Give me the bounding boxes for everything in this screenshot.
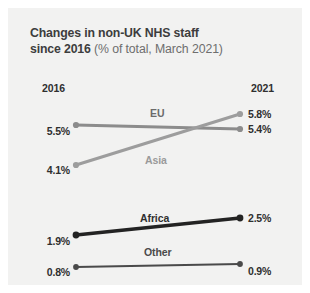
value-label-asia-2016: 4.1% [20, 164, 70, 176]
data-point-asia-2021 [237, 111, 243, 117]
axis-label-year-2021: 2021 [251, 82, 274, 94]
value-label-africa-2021: 2.5% [248, 212, 271, 224]
page-title: Changes in non-UK NHS staff since 2016 (… [30, 26, 288, 57]
value-label-africa-2016: 1.9% [20, 235, 70, 247]
series-label-other: Other [144, 246, 172, 258]
title-subtitle-part: (% of total, March 2021) [91, 42, 223, 56]
data-point-asia-2016 [73, 162, 79, 168]
series-line-other [76, 264, 240, 267]
data-point-eu-2021 [237, 126, 243, 132]
data-point-africa-2021 [237, 215, 244, 222]
value-label-other-2021: 0.9% [248, 265, 271, 277]
value-label-eu-2021: 5.4% [248, 123, 271, 135]
value-label-other-2016: 0.8% [20, 266, 70, 278]
title-line-1: Changes in non-UK NHS staff [30, 26, 288, 42]
value-label-asia-2021: 5.8% [248, 108, 271, 120]
series-line-eu [76, 125, 240, 129]
title-line-2: since 2016 (% of total, March 2021) [30, 42, 288, 58]
series-label-africa: Africa [140, 212, 169, 224]
series-label-eu: EU [150, 107, 164, 119]
chart-card: Changes in non-UK NHS staff since 2016 (… [8, 8, 302, 285]
axis-label-year-2016: 2016 [42, 82, 65, 94]
series-label-asia: Asia [145, 154, 167, 166]
data-point-other-2016 [73, 264, 79, 270]
data-point-africa-2016 [73, 232, 80, 239]
title-bold-part: since 2016 [30, 42, 91, 56]
data-point-other-2021 [237, 261, 243, 267]
data-point-eu-2016 [73, 122, 79, 128]
value-label-eu-2016: 5.5% [20, 125, 70, 137]
